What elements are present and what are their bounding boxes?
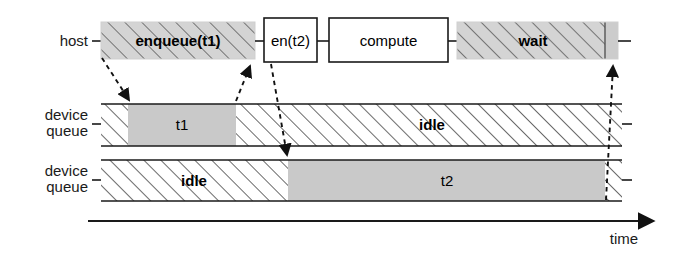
host-block-wait: wait [457, 22, 618, 59]
device-queue-1-t1-label: t1 [176, 116, 189, 133]
timeline-diagram: host enqueue(t1) en(t2) compute [0, 0, 678, 254]
time-axis-label: time [610, 230, 638, 247]
arrow-enqueue-to-dq1 [102, 58, 129, 100]
device-queue-1-label-line2: queue [46, 122, 88, 139]
device-queue-1-t1-block: t1 [128, 104, 236, 146]
device-queue-1-idle-head [101, 104, 128, 146]
time-axis: time [88, 221, 652, 247]
device-queue-2-t2-label: t2 [441, 172, 454, 189]
host-block-wait-label: wait [517, 32, 547, 49]
device-queue-1-row: device queue t1 idle [45, 104, 632, 146]
device-queue-2-row: device queue idle t2 [45, 160, 632, 201]
device-queue-2-label-line1: device [45, 162, 88, 179]
device-queue-2-label-line2: queue [46, 178, 88, 195]
device-queue-2-idle-label: idle [181, 172, 207, 189]
host-row: host enqueue(t1) en(t2) compute [60, 18, 631, 62]
arrow-dq1-t1-end-to-en-t2 [236, 66, 250, 101]
device-queue-1-label-line1: device [45, 106, 88, 123]
host-block-enqueue-t1: enqueue(t1) [101, 22, 255, 59]
host-row-label: host [60, 32, 89, 49]
device-queue-1-idle-label: idle [419, 116, 445, 133]
device-queue-1-idle-tail: idle [236, 104, 622, 146]
host-block-compute: compute [329, 18, 448, 62]
host-block-en-t2: en(t2) [264, 18, 317, 62]
device-queue-2-t2-block: t2 [288, 160, 605, 201]
host-block-compute-label: compute [360, 32, 418, 49]
host-block-enqueue-t1-label: enqueue(t1) [135, 32, 220, 49]
host-block-en-t2-label: en(t2) [271, 32, 310, 49]
device-queue-2-idle-head: idle [101, 160, 288, 201]
